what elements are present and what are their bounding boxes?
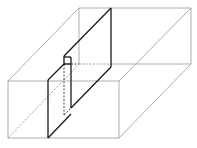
box-section-diagram xyxy=(0,0,197,148)
box-front-face xyxy=(8,81,119,138)
box-back-face xyxy=(79,8,191,64)
cutting-plane xyxy=(48,8,111,138)
box-depth-edges xyxy=(8,8,191,138)
